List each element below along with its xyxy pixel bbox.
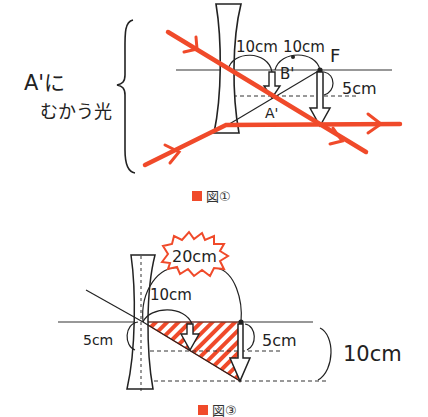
optics-diagram: A'に むかう光 10cm 10cm F B' A' 5cm [0, 0, 428, 417]
right-height-bracket [245, 324, 254, 350]
point-b-label: B' [280, 65, 294, 83]
figure-1-caption-text: 図① [206, 186, 231, 205]
curly-brace [117, 20, 135, 173]
side-label-line-2: むかう光 [40, 101, 112, 122]
right-height-label: 5cm [262, 331, 297, 350]
figure-1: A'に むかう光 10cm 10cm F B' A' 5cm [24, 4, 400, 173]
figure-3-caption-text: 図③ [212, 400, 237, 417]
caption-square-icon [198, 405, 208, 415]
distance-label-2: 10cm [283, 38, 325, 56]
figure-3: 20cm 10cm 5cm 5cm 10cm [58, 232, 402, 392]
distance-label-10cm: 10cm [150, 286, 192, 304]
callout-label: 20cm [172, 247, 217, 266]
point-a-label: A' [265, 105, 278, 121]
total-height-bracket [318, 328, 331, 380]
figure-3-caption: 図③ [198, 400, 237, 417]
focal-label: F [330, 45, 340, 66]
height-label: 5cm [342, 79, 377, 98]
figure-1-caption: 図① [192, 186, 231, 205]
side-label-line-1: A'に [24, 71, 65, 95]
left-height-label: 5cm [83, 332, 113, 348]
height-bracket [324, 72, 333, 95]
total-height-label: 10cm [343, 342, 402, 366]
caption-square-icon [192, 191, 202, 201]
distance-label-1: 10cm [236, 38, 278, 56]
